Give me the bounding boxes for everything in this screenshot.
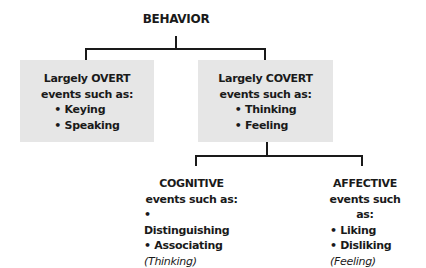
affective-note: (Feeling): [320, 254, 410, 268]
covert-item: • Thinking: [235, 102, 297, 118]
cognitive-title: COGNITIVE: [144, 176, 239, 192]
cognitive-note: (Thinking): [144, 254, 239, 268]
connector-covert-right-drop: [361, 155, 363, 166]
covert-item: • Feeling: [235, 118, 297, 134]
cognitive-item: • Distinguishing: [144, 207, 239, 238]
connector-covert-stem: [266, 142, 268, 156]
overt-node: Largely OVERT events such as: • Keying •…: [20, 60, 154, 142]
affective-subtitle: events such as:: [320, 192, 410, 223]
overt-item: • Speaking: [54, 118, 119, 134]
overt-title: Largely OVERT: [20, 71, 154, 87]
cognitive-item: • Associating: [144, 238, 239, 254]
affective-item: • Liking: [320, 223, 410, 239]
connector-root-bar: [85, 48, 266, 50]
overt-item: • Keying: [54, 102, 119, 118]
connector-covert-left-drop: [195, 155, 197, 166]
covert-title: Largely COVERT: [198, 71, 333, 87]
affective-title: AFFECTIVE: [320, 176, 410, 192]
root-node-behavior: BEHAVIOR: [0, 12, 352, 26]
overt-subtitle: events such as:: [20, 87, 154, 103]
cognitive-node: COGNITIVE events such as: • Distinguishi…: [144, 176, 239, 268]
covert-node: Largely COVERT events such as: • Thinkin…: [198, 60, 333, 142]
covert-subtitle: events such as:: [198, 87, 333, 103]
affective-node: AFFECTIVE events such as: • Liking • Dis…: [320, 176, 410, 268]
cognitive-subtitle: events such as:: [144, 192, 239, 208]
connector-root-right-drop: [264, 48, 266, 60]
connector-root-left-drop: [85, 48, 87, 60]
connector-covert-bar: [195, 155, 363, 157]
affective-item: • Disliking: [320, 238, 410, 254]
